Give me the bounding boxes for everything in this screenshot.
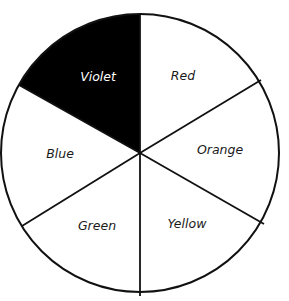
label-red: Red xyxy=(171,68,195,83)
color-wheel-diagram: Red Orange Yellow Green Blue Violet xyxy=(0,0,289,301)
label-violet: Violet xyxy=(80,69,117,84)
label-blue: Blue xyxy=(46,146,74,161)
label-orange: Orange xyxy=(197,142,243,157)
label-yellow: Yellow xyxy=(168,216,208,231)
label-green: Green xyxy=(78,218,116,233)
